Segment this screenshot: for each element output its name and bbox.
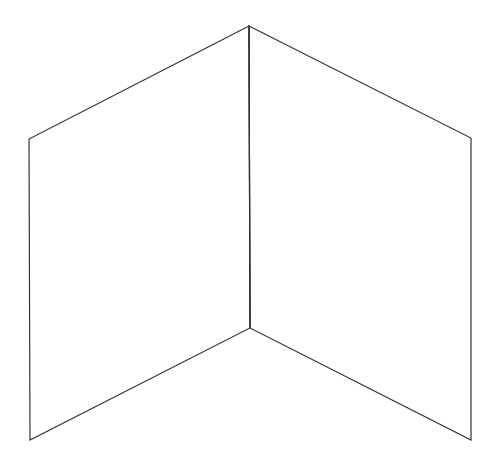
shared-fold-edge <box>249 26 250 328</box>
left-panel <box>29 26 250 440</box>
right-panel <box>249 26 471 440</box>
folded-panels-diagram <box>0 0 498 458</box>
diagram-canvas <box>0 0 498 458</box>
